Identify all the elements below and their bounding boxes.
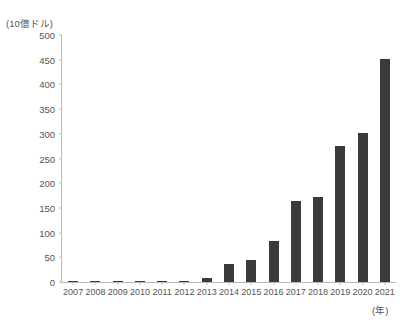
bar[interactable] [335,146,345,282]
x-axis-tick-mark [362,282,363,285]
x-axis-tick-label: 2012 [174,287,194,297]
x-axis-tick-mark [295,282,296,285]
x-axis-tick-label: 2011 [153,287,172,297]
bar[interactable] [313,197,323,282]
bar[interactable] [224,264,234,282]
bar-slot: 2009 [107,35,129,282]
plot-area: 500450400350300250200150100500 200720082… [61,35,396,283]
y-axis-unit-label: (10億ドル) [6,16,53,30]
x-axis-tick-mark [318,282,319,285]
bar-slot: 2015 [240,35,262,282]
bar[interactable] [269,241,279,282]
bar-slot: 2011 [151,35,173,282]
x-axis-tick-label: 2016 [264,287,284,297]
x-axis-tick-label: 2008 [85,287,105,297]
y-axis-tick-label: 0 [9,277,62,288]
x-axis-tick-label: 2014 [219,287,239,297]
x-axis-tick-mark [206,282,207,285]
x-axis-tick-mark [340,282,341,285]
x-axis-tick-label: 2015 [241,287,261,297]
x-axis-tick-mark [273,282,274,285]
x-axis-tick-mark [73,282,74,285]
x-axis-tick-mark [117,282,118,285]
y-axis-tick-label: 200 [9,178,62,189]
x-axis-tick-label: 2019 [330,287,350,297]
x-axis-tick-mark [95,282,96,285]
bar-slot: 2020 [351,35,373,282]
bar-slot: 2018 [307,35,329,282]
bar[interactable] [291,201,301,282]
x-axis-tick-label: 2021 [375,287,395,297]
bar-slot: 2010 [129,35,151,282]
x-axis-tick-mark [228,282,229,285]
x-axis-tick-label: 2013 [197,287,217,297]
bar-slot: 2008 [84,35,106,282]
bar-slot: 2014 [218,35,240,282]
bar[interactable] [380,59,390,282]
bar-slot: 2016 [262,35,284,282]
x-axis-tick-label: 2018 [308,287,328,297]
x-axis-unit-label: (年) [372,303,388,317]
y-axis-tick-label: 250 [9,153,62,164]
bar-chart-figure: (10億ドル) 500450400350300250200150100500 2… [0,0,405,322]
x-axis-tick-label: 2020 [353,287,373,297]
bar[interactable] [358,133,368,282]
bar-slot: 2019 [329,35,351,282]
x-axis-tick-label: 2009 [108,287,128,297]
x-axis-tick-label: 2017 [286,287,306,297]
bar-series-group: 2007200820092010201120122013201420152016… [62,35,396,282]
y-axis-tick-label: 150 [9,202,62,213]
x-axis-tick-mark [139,282,140,285]
x-axis-tick-mark [384,282,385,285]
bar-slot: 2017 [285,35,307,282]
y-axis-tick-label: 50 [9,252,62,263]
y-axis-tick-label: 350 [9,104,62,115]
x-axis-tick-mark [184,282,185,285]
x-axis-tick-label: 2010 [130,287,150,297]
y-axis-tick-label: 400 [9,79,62,90]
bar[interactable] [246,260,256,282]
y-axis-tick-label: 500 [9,30,62,41]
bar-slot: 2007 [62,35,84,282]
y-axis-tick-label: 450 [9,54,62,65]
bar-slot: 2012 [173,35,195,282]
x-axis-tick-label: 2007 [63,287,83,297]
y-axis-tick-label: 300 [9,128,62,139]
x-axis-tick-mark [251,282,252,285]
y-axis-tick-label: 100 [9,227,62,238]
bar-slot: 2021 [374,35,396,282]
x-axis-tick-mark [162,282,163,285]
bar-slot: 2013 [196,35,218,282]
